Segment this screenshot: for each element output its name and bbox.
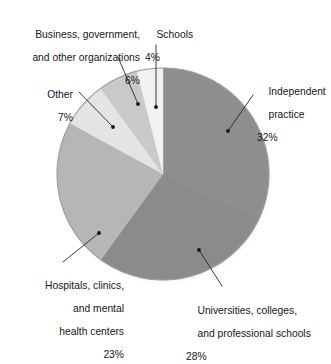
leader-dot-schools <box>154 105 158 109</box>
slice-label-schools-line1: Schools <box>156 29 193 40</box>
slice-label-business-line2: and other organizations <box>32 52 140 63</box>
slice-label-hospitals-line2: and mental <box>73 303 124 314</box>
slice-label-universities-line1: Universities, colleges, <box>197 305 297 316</box>
leader-dot-other <box>111 125 115 129</box>
slice-label-other-line1: Other <box>47 89 73 100</box>
leader-dot-universities <box>197 248 201 252</box>
slice-label-business-line1: Business, government, <box>35 29 140 40</box>
slice-label-universities-line2: and professional schools <box>197 328 310 339</box>
slice-percent-schools: 4% <box>145 52 215 64</box>
slice-label-hospitals-line1: Hospitals, clinics, <box>45 280 124 291</box>
leader-dot-independent <box>226 129 230 133</box>
slice-label-hospitals: Hospitals, clinics, and mental health ce… <box>2 268 124 364</box>
slice-percent-universities: 28% <box>186 351 331 363</box>
slice-label-independent-line1: Independent <box>268 86 325 97</box>
slice-label-other: Other 7% <box>10 77 73 147</box>
slice-percent-hospitals: 23% <box>2 349 124 361</box>
slice-label-independent-line2: practice <box>268 109 304 120</box>
slice-label-hospitals-line3: health centers <box>59 326 124 337</box>
leader-dot-hospitals <box>97 231 101 235</box>
slice-label-schools: Schools 4% <box>145 17 215 87</box>
slice-percent-independent: 32% <box>257 132 329 144</box>
slice-label-universities: Universities, colleges, and professional… <box>186 293 331 364</box>
slice-label-independent-practice: Independent practice 32% <box>257 74 329 167</box>
slice-percent-other: 7% <box>10 112 73 124</box>
